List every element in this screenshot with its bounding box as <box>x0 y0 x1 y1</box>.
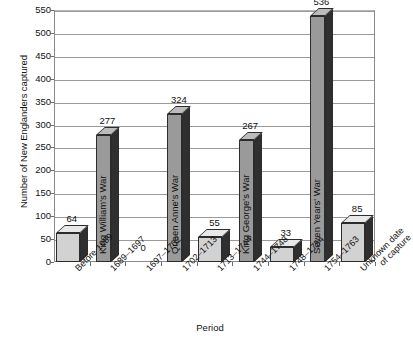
bar-slot: 64 <box>54 10 90 262</box>
bar-side-face <box>254 132 262 262</box>
bar-value-label: 85 <box>339 203 375 214</box>
bar-side-face <box>182 106 190 262</box>
bar-slot: 0 <box>125 10 161 262</box>
bar-value-label: 55 <box>197 217 233 228</box>
bar-front-face <box>56 233 80 262</box>
bar-value-label: 536 <box>304 0 340 7</box>
y-axis-tick-label: 300 <box>17 119 51 130</box>
y-axis-tick-label: 200 <box>17 164 51 175</box>
y-axis-tick-label: 250 <box>17 141 51 152</box>
bar-value-label: 324 <box>161 94 197 105</box>
bar-slot: King George's War267 <box>232 10 268 262</box>
y-axis-tick-label: 400 <box>17 73 51 84</box>
y-axis-tick-label: 550 <box>17 4 51 15</box>
bar-slot: 33 <box>268 10 304 262</box>
x-axis-title: Period <box>150 322 270 333</box>
bar-side-face <box>111 128 119 262</box>
bars-layer: 64King William's War2770Queen Anne's War… <box>54 10 375 262</box>
bar-slot: Seven Years' War536 <box>304 10 340 262</box>
bar-slot: King William's War277 <box>90 10 126 262</box>
bar-value-label: 64 <box>54 213 90 224</box>
y-axis-tick-label: 500 <box>17 27 51 38</box>
x-axis-ticks: Before 16891689–16971697–17021702–171317… <box>0 262 391 346</box>
y-axis-tick-label: 450 <box>17 50 51 61</box>
bar-slot: 85 <box>339 10 375 262</box>
y-axis-tick-label: 350 <box>17 96 51 107</box>
bar[interactable] <box>56 233 80 262</box>
y-axis-tick-label: 50 <box>17 233 51 244</box>
bar-slot: 55 <box>197 10 233 262</box>
y-axis-tick-label: 150 <box>17 187 51 198</box>
y-axis-tick-label: 100 <box>17 210 51 221</box>
bar-value-label: 277 <box>90 115 126 126</box>
bar-slot: Queen Anne's War324 <box>161 10 197 262</box>
bar-value-label: 267 <box>232 120 268 131</box>
bar-side-face <box>325 9 333 262</box>
